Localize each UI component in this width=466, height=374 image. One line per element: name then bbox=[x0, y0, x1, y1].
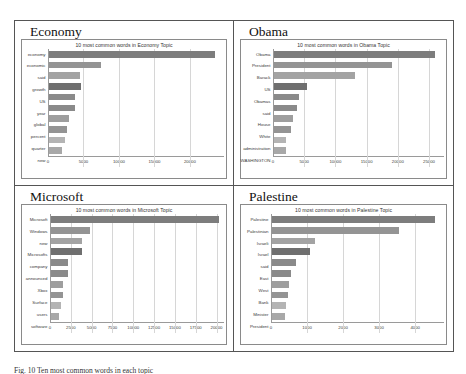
bar-row bbox=[272, 246, 444, 257]
bar bbox=[51, 281, 63, 288]
y-tick-label: new bbox=[22, 155, 48, 167]
bar bbox=[49, 126, 67, 133]
bar bbox=[49, 72, 80, 79]
y-tick-label: said bbox=[241, 108, 273, 120]
bar-row bbox=[49, 124, 224, 135]
plot-area: PalestinePalestinianIsraeliIsraelsaidEas… bbox=[241, 214, 444, 333]
plot-area: economyeconomicsaidgrowthUSyearglobalper… bbox=[22, 49, 224, 167]
figure-grid: Economy 10 most common words in Economy … bbox=[14, 20, 454, 352]
y-tick-label: President bbox=[241, 61, 273, 73]
bar bbox=[272, 238, 315, 245]
bar-row bbox=[49, 49, 224, 60]
panel-title: Economy bbox=[30, 24, 230, 39]
bar bbox=[51, 248, 82, 255]
bar-row bbox=[272, 268, 444, 279]
bar bbox=[49, 105, 75, 112]
bar bbox=[274, 51, 435, 58]
y-tick-label: US bbox=[241, 84, 273, 96]
bar-row bbox=[272, 257, 444, 268]
bar-row bbox=[49, 113, 224, 124]
chart-title: 10 most common words in Obama Topic bbox=[241, 42, 446, 48]
x-tick-label: 10000 bbox=[113, 159, 125, 164]
x-tick-label: 17500 bbox=[190, 325, 202, 330]
bar-row bbox=[49, 103, 224, 114]
y-tick-label: said bbox=[241, 262, 271, 274]
x-tick-label: 5000 bbox=[87, 325, 97, 330]
bar-row bbox=[272, 300, 444, 311]
bar-row bbox=[51, 246, 224, 257]
bar bbox=[49, 83, 81, 90]
chart-axes: 10 most common words in Palestine Topic … bbox=[240, 204, 447, 345]
bar bbox=[274, 147, 286, 154]
bar bbox=[274, 62, 392, 69]
panel-economy: Economy 10 most common words in Economy … bbox=[15, 21, 234, 186]
x-tick-label: 7500 bbox=[108, 325, 118, 330]
x-tick-label: 20000 bbox=[211, 325, 223, 330]
x-tick-label: 0 bbox=[49, 325, 51, 330]
bar-row bbox=[274, 81, 444, 92]
chart-title: 10 most common words in Economy Topic bbox=[22, 42, 226, 48]
bar bbox=[272, 227, 399, 234]
bar bbox=[272, 281, 289, 288]
bar bbox=[49, 115, 69, 122]
bar-row bbox=[272, 290, 444, 301]
y-tick-label: Bank bbox=[241, 297, 271, 309]
bar-row bbox=[272, 225, 444, 236]
bar bbox=[274, 126, 291, 133]
bar-row bbox=[51, 236, 224, 247]
bar bbox=[49, 137, 65, 144]
y-tick-label: President bbox=[241, 321, 271, 333]
x-tick-label: 10000 bbox=[127, 325, 139, 330]
y-tick-label: Windows bbox=[22, 226, 50, 238]
x-axis: 05000100001500020000 bbox=[48, 156, 224, 167]
bar-row bbox=[51, 279, 224, 290]
y-tick-label: economic bbox=[22, 61, 48, 73]
bar bbox=[274, 94, 299, 101]
bar-row bbox=[274, 113, 444, 124]
x-tick-label: 15000 bbox=[148, 159, 160, 164]
x-axis: 0500010000150002000025000 bbox=[273, 156, 444, 167]
chart-axes: 10 most common words in Obama Topic Obam… bbox=[240, 39, 447, 179]
bar-row bbox=[49, 145, 224, 156]
y-tick-label: year bbox=[22, 108, 48, 120]
bar-row bbox=[274, 92, 444, 103]
y-tick-label: Palestine bbox=[241, 214, 271, 226]
y-tick-label: Barack bbox=[241, 73, 273, 85]
y-tick-label: Israeli bbox=[241, 238, 271, 250]
chart-axes: 10 most common words in Economy Topic ec… bbox=[21, 39, 227, 179]
y-tick-label: Microsoft bbox=[22, 214, 50, 226]
bar-row bbox=[51, 290, 224, 301]
y-tick-label: US bbox=[22, 96, 48, 108]
bar bbox=[49, 51, 215, 58]
bar-series bbox=[48, 49, 224, 156]
bar-row bbox=[272, 236, 444, 247]
panel-title: Obama bbox=[249, 24, 450, 39]
bar-row bbox=[274, 70, 444, 81]
x-axis: 01000200030004000 bbox=[271, 322, 444, 333]
bar-row bbox=[49, 81, 224, 92]
plot-area: ObamaPresidentBarackUSObamassaidHouseWhi… bbox=[241, 49, 444, 167]
bar-row bbox=[51, 311, 224, 322]
y-tick-label: economy bbox=[22, 49, 48, 61]
x-tick-label: 0 bbox=[47, 159, 49, 164]
bar bbox=[51, 216, 219, 223]
bar-row bbox=[49, 92, 224, 103]
y-tick-label: percent bbox=[22, 132, 48, 144]
bar-row bbox=[274, 103, 444, 114]
panel-title: Palestine bbox=[249, 189, 450, 204]
y-tick-label: WASHINGTON bbox=[241, 155, 273, 167]
x-axis: 02500500075001000012500150001750020000 bbox=[50, 322, 224, 333]
bar bbox=[272, 302, 286, 309]
bar-row bbox=[51, 214, 224, 225]
bar bbox=[49, 62, 101, 69]
x-tick-label: 0 bbox=[270, 325, 272, 330]
bar bbox=[274, 72, 355, 79]
figure-caption: Fig. 10 Ten most common words in each to… bbox=[14, 366, 314, 374]
bar-row bbox=[51, 257, 224, 268]
bar bbox=[274, 105, 297, 112]
bar bbox=[49, 147, 62, 154]
bar bbox=[51, 227, 90, 234]
bar-row bbox=[272, 279, 444, 290]
bar bbox=[49, 94, 75, 101]
bar-row bbox=[51, 300, 224, 311]
